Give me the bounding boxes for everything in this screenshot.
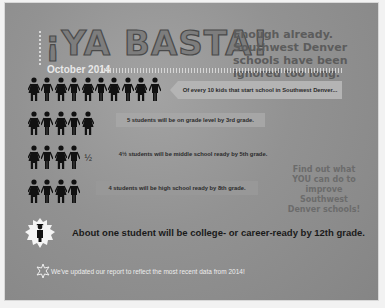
boy-figure-icon	[68, 179, 80, 203]
girl-figure-icon	[55, 77, 67, 101]
boy-figure-icon	[68, 145, 80, 169]
boy-figure-icon	[122, 77, 134, 101]
girl-figure-icon	[82, 111, 94, 135]
callout-5th-grade: 4½ students will be middle school ready …	[108, 147, 278, 161]
boy-figure-icon	[149, 77, 161, 101]
girl-figure-icon	[28, 145, 40, 169]
update-text: We've updated our report to reflect the …	[51, 268, 245, 275]
callout-intro: Of every 10 kids that start school in So…	[178, 81, 342, 99]
figure-row-2	[28, 111, 95, 135]
boy-figure-icon	[41, 77, 53, 101]
girl-figure-icon	[55, 179, 67, 203]
starburst-icon	[36, 264, 50, 278]
call-to-action-link[interactable]: Find out what YOU can do to improve Sout…	[284, 165, 364, 215]
callout-3rd-grade: 5 students will be on grade level by 3rd…	[116, 113, 265, 127]
side-tag-decoration	[39, 31, 44, 65]
figure-row-3: ½	[28, 145, 92, 169]
boy-figure-icon	[41, 179, 53, 203]
dotted-divider	[101, 68, 343, 73]
boy-figure-icon	[41, 145, 53, 169]
girl-figure-icon	[108, 77, 120, 101]
half-figure-label: ½	[85, 153, 93, 163]
graduate-badge-icon	[25, 218, 55, 248]
figure-row-4	[28, 179, 82, 203]
boy-figure-icon	[68, 111, 80, 135]
boy-figure-icon	[95, 77, 107, 101]
college-ready-stat: About one student will be college- or ca…	[72, 227, 365, 238]
boy-figure-icon	[41, 111, 53, 135]
update-notice: We've updated our report to reflect the …	[36, 264, 245, 278]
girl-figure-icon	[55, 111, 67, 135]
boy-figure-icon	[68, 77, 80, 101]
girl-figure-icon	[82, 77, 94, 101]
girl-figure-icon	[55, 145, 67, 169]
girl-figure-icon	[135, 77, 147, 101]
girl-figure-icon	[28, 179, 40, 203]
callout-8th-grade: 4 students will be high school ready by …	[96, 181, 258, 195]
girl-figure-icon	[28, 111, 40, 135]
figure-row-1	[28, 77, 162, 101]
girl-figure-icon	[28, 77, 40, 101]
